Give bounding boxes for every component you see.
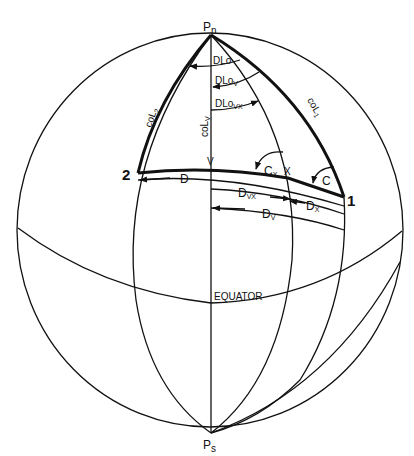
point-1-label: 1 <box>347 192 355 209</box>
north-pole-label: Pn <box>203 20 217 36</box>
distance-line-dvx <box>211 189 344 214</box>
vertex-label: V <box>207 156 214 167</box>
point-x-label: X <box>284 166 291 177</box>
meridian-point-2 <box>133 35 211 433</box>
dlo-label: DLo <box>213 55 232 66</box>
point-2-label: 2 <box>122 166 130 183</box>
distance-line-dv <box>211 208 344 230</box>
distance-dx-label: DX <box>306 199 320 213</box>
equator-label: EQUATOR <box>214 291 263 302</box>
south-pole-label: Ps <box>203 438 216 454</box>
distance-dvx-label: DVX <box>238 186 256 200</box>
meridian-point-1 <box>211 197 345 433</box>
meridian-point-x <box>211 35 293 433</box>
course-c-label: C <box>322 174 331 188</box>
colatitude-1-label: coL1 <box>304 96 324 119</box>
dlo-vx-label: DLoVX <box>215 98 243 110</box>
distance-dv-label: DV <box>262 207 276 221</box>
distance-d-label: D <box>180 172 189 186</box>
course-cx-label: CX <box>264 164 278 178</box>
colatitude-v-label: coLV <box>199 116 211 137</box>
dlo-v-label: DLoV <box>215 75 238 87</box>
great-circle-diagram: Pn Ps 2 1 V X DLo DLoV DLoVX coL2 coL1 c… <box>0 0 414 456</box>
meridian-lower-right <box>211 262 400 433</box>
